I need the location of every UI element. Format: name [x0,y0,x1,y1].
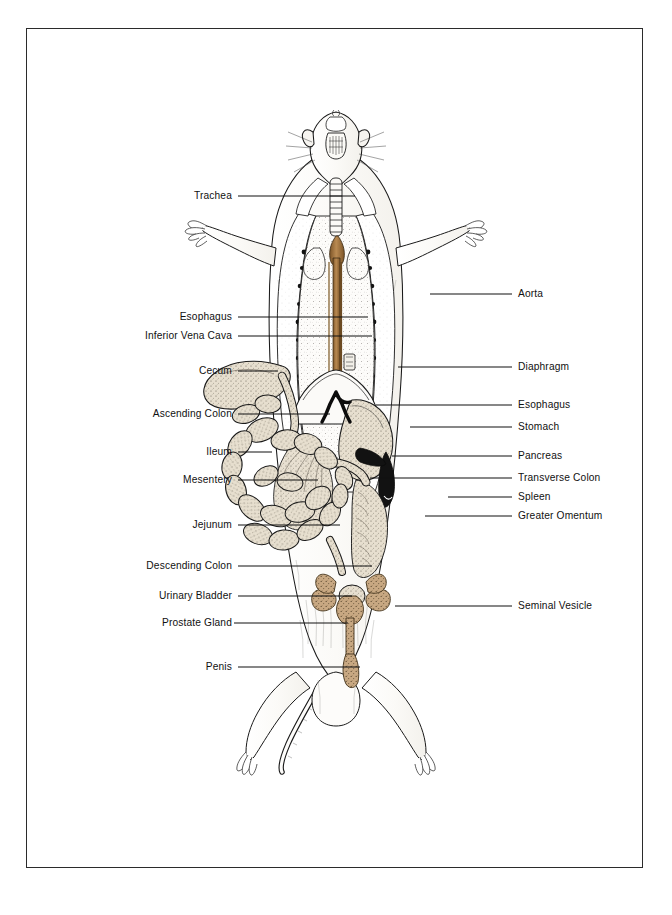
forelimb-left [202,226,276,266]
label-descending-colon: Descending Colon [0,561,232,571]
ear-right [358,130,370,147]
label-urinary-bladder: Urinary Bladder [0,591,232,601]
label-prostate-gland: Prostate Gland [0,618,232,628]
label-ascending-colon: Ascending Colon [0,409,232,419]
label-stomach: Stomach [518,422,559,432]
label-diaphragm: Diaphragm [518,362,569,372]
penis [343,654,359,688]
label-esophagus-upper: Esophagus [0,312,232,322]
label-mesentery: Mesentery [0,475,232,485]
label-trachea: Trachea [0,191,232,201]
label-cecum: Cecum [0,366,232,376]
hindlimb-right [362,672,426,760]
label-transverse-colon: Transverse Colon [518,473,600,483]
forepaw-left [185,221,207,247]
ear-left [302,130,314,147]
hindpaws [237,752,435,775]
label-inferior-vena-cava: Inferior Vena Cava [0,331,232,341]
forelimb-right [396,226,470,266]
label-ileum: Ileum [0,447,232,457]
label-jejunum: Jejunum [0,520,232,530]
trachea [330,178,342,236]
figure-page: TracheaEsophagusInferior Vena CavaCecumA… [0,0,672,915]
label-greater-omentum: Greater Omentum [518,511,602,521]
label-pancreas: Pancreas [518,451,562,461]
label-spleen: Spleen [518,492,551,502]
label-esophagus-lower: Esophagus [518,400,570,410]
label-seminal-vesicle: Seminal Vesicle [518,601,592,611]
rat-anatomy-illustration [0,0,672,915]
label-aorta: Aorta [518,289,543,299]
forepaw-right [465,221,487,247]
label-penis: Penis [0,662,232,672]
